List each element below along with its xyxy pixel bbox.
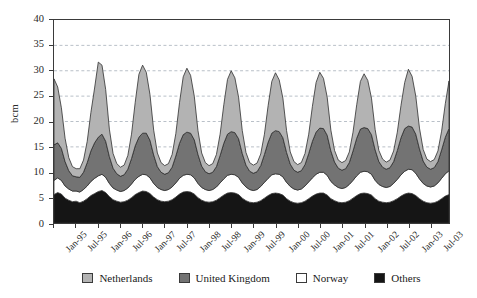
x-tick-mark bbox=[53, 224, 54, 228]
y-tick-label: 15 bbox=[14, 142, 44, 153]
legend-label: Netherlands bbox=[99, 272, 152, 284]
x-tick-label: Jul-01 bbox=[353, 230, 377, 254]
x-tick-mark bbox=[209, 224, 210, 228]
y-tick-label: 0 bbox=[14, 219, 44, 230]
x-tick-label: Jul-97 bbox=[175, 230, 199, 254]
chart-legend: NetherlandsUnited KingdomNorwayOthers bbox=[53, 268, 450, 288]
x-tick-label: Jan-02 bbox=[376, 230, 401, 255]
x-tick-label: Jul-99 bbox=[264, 230, 288, 254]
x-tick-mark bbox=[98, 224, 99, 228]
x-tick-label: Jan-01 bbox=[332, 230, 357, 255]
x-tick-mark bbox=[164, 224, 165, 228]
area-series bbox=[54, 62, 449, 177]
x-tick-label: Jul-02 bbox=[398, 230, 422, 254]
x-tick-mark bbox=[253, 224, 254, 228]
x-tick-mark bbox=[75, 224, 76, 228]
legend-swatch bbox=[374, 273, 385, 283]
x-tick-label: Jul-98 bbox=[220, 230, 244, 254]
x-tick-label: Jul-03 bbox=[442, 230, 466, 254]
x-tick-mark bbox=[276, 224, 277, 228]
x-tick-mark bbox=[431, 224, 432, 228]
x-tick-mark bbox=[320, 224, 321, 228]
x-tick-label: Jan-99 bbox=[242, 230, 267, 255]
y-tick-label: 25 bbox=[14, 90, 44, 101]
x-tick-mark bbox=[142, 224, 143, 228]
stacked-area-chart: bcm 0510152025303540 Jan-95Jul-95Jan-96J… bbox=[0, 0, 477, 298]
legend-swatch bbox=[82, 273, 93, 283]
x-tick-label: Jul-95 bbox=[86, 230, 110, 254]
x-tick-mark bbox=[187, 224, 188, 228]
x-tick-label: Jan-97 bbox=[153, 230, 178, 255]
x-tick-label: Jan-03 bbox=[421, 230, 446, 255]
legend-label: Norway bbox=[313, 272, 348, 284]
x-tick-label: Jan-00 bbox=[287, 230, 312, 255]
x-tick-mark bbox=[342, 224, 343, 228]
y-tick-label: 5 bbox=[14, 193, 44, 204]
y-tick-label: 10 bbox=[14, 167, 44, 178]
legend-item[interactable]: United Kingdom bbox=[179, 272, 270, 284]
x-tick-label: Jan-95 bbox=[64, 230, 89, 255]
y-tick-label: 30 bbox=[14, 65, 44, 76]
x-tick-mark bbox=[231, 224, 232, 228]
legend-swatch bbox=[296, 273, 307, 283]
legend-label: Others bbox=[391, 272, 420, 284]
plot-canvas bbox=[54, 20, 449, 223]
x-tick-label: Jan-96 bbox=[109, 230, 134, 255]
x-tick-label: Jul-00 bbox=[309, 230, 333, 254]
x-tick-mark bbox=[120, 224, 121, 228]
y-tick-label: 40 bbox=[14, 14, 44, 25]
x-tick-mark bbox=[409, 224, 410, 228]
x-tick-label: Jul-96 bbox=[131, 230, 155, 254]
plot-area bbox=[53, 19, 450, 224]
y-tick-label: 20 bbox=[14, 116, 44, 127]
legend-label: United Kingdom bbox=[196, 272, 270, 284]
x-tick-mark bbox=[298, 224, 299, 228]
y-tick-label: 35 bbox=[14, 39, 44, 50]
x-tick-mark bbox=[365, 224, 366, 228]
legend-swatch bbox=[179, 273, 190, 283]
x-tick-label: Jan-98 bbox=[198, 230, 223, 255]
legend-item[interactable]: Netherlands bbox=[82, 272, 152, 284]
legend-item[interactable]: Norway bbox=[296, 272, 348, 284]
x-tick-mark bbox=[387, 224, 388, 228]
legend-item[interactable]: Others bbox=[374, 272, 420, 284]
